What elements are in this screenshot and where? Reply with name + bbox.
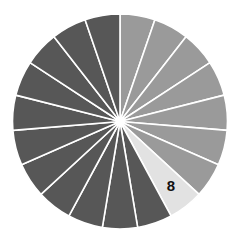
wedge-label-8: 8 <box>167 177 175 194</box>
divided-circle: 8 <box>0 0 239 244</box>
center-point <box>118 119 123 124</box>
